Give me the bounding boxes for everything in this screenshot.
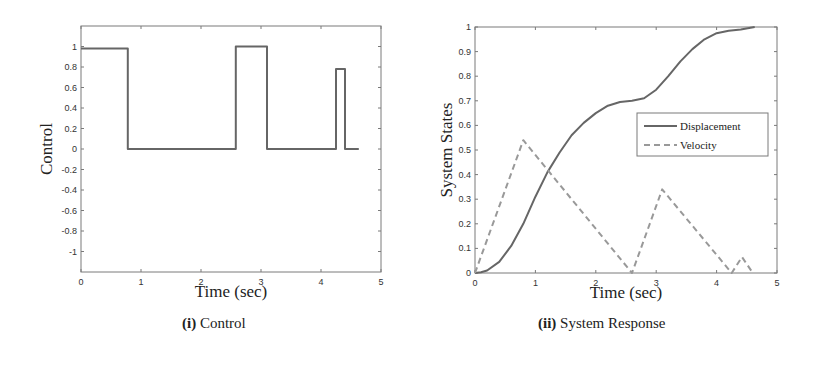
y-tick-label: 0.4 xyxy=(458,170,471,180)
caption-response-text: System Response xyxy=(560,315,665,331)
y-tick-label: -0.2 xyxy=(61,165,77,175)
y-tick-label: 0.2 xyxy=(64,124,77,134)
y-tick-label: 0.8 xyxy=(64,62,77,72)
legend-label-velocity: Velocity xyxy=(680,139,717,151)
caption-control: (i) Control xyxy=(182,315,246,332)
x-axis-label: Time (sec) xyxy=(195,282,268,301)
y-tick-label: 0.6 xyxy=(64,83,77,93)
x-tick-label: 5 xyxy=(774,278,779,288)
y-tick-label: -0.8 xyxy=(61,226,77,236)
y-tick-label: 0.2 xyxy=(458,219,471,229)
x-axis-label: Time (sec) xyxy=(590,283,663,302)
y-tick-label: 0.6 xyxy=(458,120,471,130)
x-tick-label: 4 xyxy=(714,278,719,288)
y-tick-label: 0.8 xyxy=(458,71,471,81)
y-tick-label: 0.3 xyxy=(458,194,471,204)
caption-control-text: Control xyxy=(200,315,246,331)
x-tick-label: 4 xyxy=(318,277,323,287)
y-tick-label: 0.9 xyxy=(458,47,471,57)
caption-control-prefix: (i) xyxy=(182,315,196,331)
x-tick-label: 1 xyxy=(138,277,143,287)
y-axis-label: System States xyxy=(437,103,456,198)
x-tick-label: 1 xyxy=(533,278,538,288)
y-axis-label: Control xyxy=(37,123,56,175)
x-tick-label: 0 xyxy=(78,277,83,287)
x-tick-label: 5 xyxy=(378,277,383,287)
caption-response-prefix: (ii) xyxy=(538,315,556,331)
y-tick-label: -0.6 xyxy=(61,206,77,216)
figure-canvas: 01234510.80.60.40.20-0.2-0.4-0.6-0.8-1Ti… xyxy=(0,0,818,367)
y-tick-label: 0.4 xyxy=(64,103,77,113)
legend-label-displacement: Displacement xyxy=(680,120,740,132)
y-tick-label: -1 xyxy=(69,247,77,257)
y-tick-label: 1 xyxy=(466,22,471,32)
y-tick-label: 1 xyxy=(72,42,77,52)
y-tick-label: 0 xyxy=(72,144,77,154)
control-plot: 01234510.80.60.40.20-0.2-0.4-0.6-0.8-1Ti… xyxy=(37,26,384,301)
y-tick-label: 0.5 xyxy=(458,145,471,155)
y-tick-label: 0.7 xyxy=(458,96,471,106)
y-tick-label: -0.4 xyxy=(61,185,77,195)
legend: DisplacementVelocity xyxy=(637,113,768,156)
system-response-plot: 01234510.90.80.70.60.50.40.30.20.10Time … xyxy=(437,22,780,302)
caption-system-response: (ii) System Response xyxy=(538,315,666,332)
x-tick-label: 0 xyxy=(472,278,477,288)
y-tick-label: 0 xyxy=(466,268,471,278)
y-tick-label: 0.1 xyxy=(458,243,471,253)
